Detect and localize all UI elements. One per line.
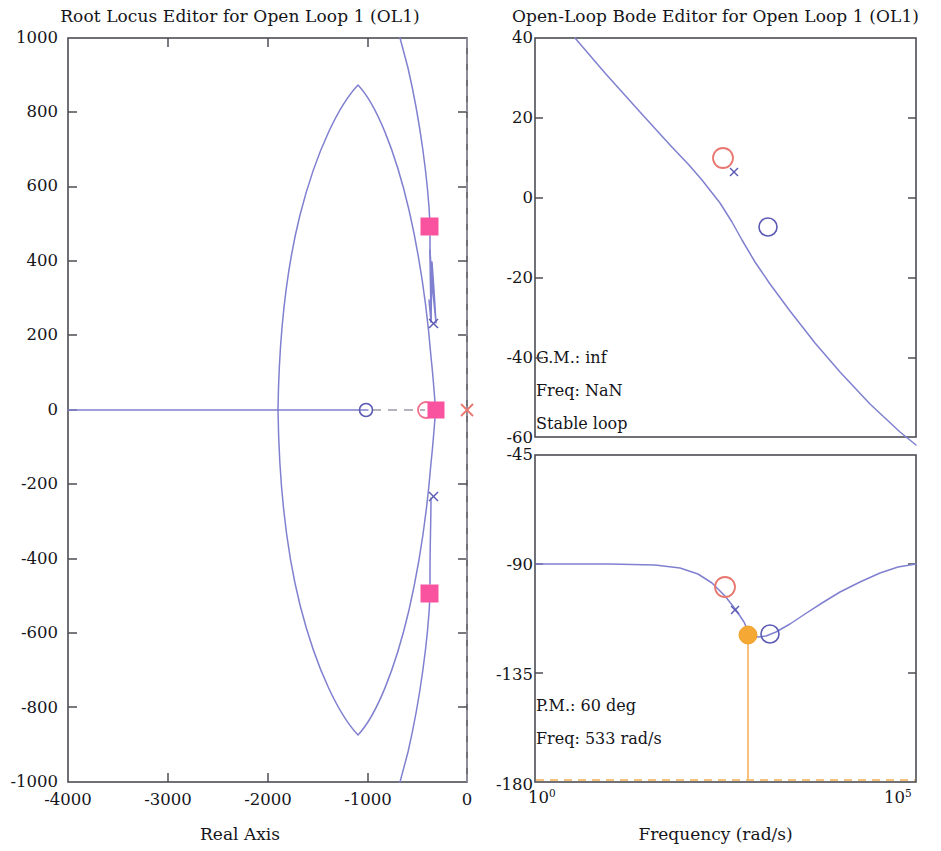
bode-phase-canvas[interactable] (480, 440, 941, 851)
open-loop-pole-marker-upper[interactable] (429, 319, 438, 328)
plant-zero-marker-mag[interactable] (759, 218, 777, 236)
closed-loop-pole-square-lower[interactable] (421, 585, 438, 602)
locus-branch-upper (278, 85, 435, 410)
siso-design-tool-figure: Root Locus Editor for Open Loop 1 (OL1) … (0, 0, 941, 851)
closed-loop-pole-square-real[interactable] (428, 402, 444, 418)
bode-magnitude-curve (575, 38, 916, 445)
locus-branch-lower (278, 410, 435, 735)
locus-branch-lower-to-bottom (400, 596, 430, 782)
bode-phase-frame (535, 455, 916, 782)
locus-branch-upper-pole-main (430, 236, 431, 322)
compensator-zero-marker-phase[interactable] (715, 577, 735, 597)
bode-magnitude-frame (535, 38, 916, 437)
open-loop-pole-marker-lower[interactable] (429, 492, 438, 501)
bode-phase-tickmarks (535, 564, 916, 673)
compensator-zero-marker-mag[interactable] (713, 148, 733, 168)
closed-loop-pole-square-upper[interactable] (421, 218, 438, 235)
locus-branch-upper-to-top (400, 38, 430, 224)
bode-magnitude-tickmarks (535, 118, 916, 358)
bode-phase-curve (536, 564, 916, 637)
root-locus-canvas[interactable] (0, 0, 480, 851)
crossover-frequency-dot[interactable] (739, 626, 757, 644)
bode-magnitude-panel: Open-Loop Bode Editor for Open Loop 1 (O… (480, 0, 941, 460)
bode-magnitude-canvas[interactable] (480, 0, 941, 460)
bode-phase-panel: -45 -90 -135 -180 P.M.: 60 deg Freq: 533… (480, 440, 941, 851)
root-locus-panel: Root Locus Editor for Open Loop 1 (OL1) … (0, 0, 480, 851)
locus-branch-lower-pole-main (430, 498, 431, 584)
compensator-pole-marker-phase[interactable] (731, 606, 739, 614)
compensator-pole-marker-mag[interactable] (730, 168, 738, 176)
